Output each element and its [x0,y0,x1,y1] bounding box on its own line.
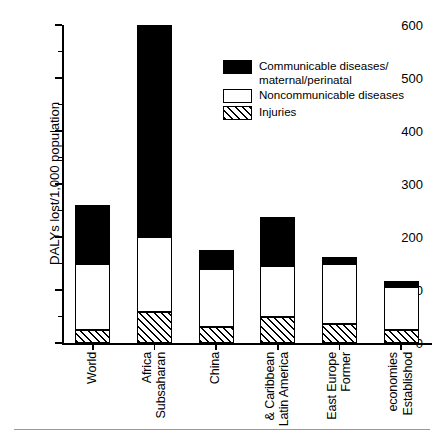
bar-stack [75,205,110,343]
y-axis-tick-major [55,24,62,26]
chart-figure: DALYs lost/1,000 population 010020030040… [0,0,444,443]
category-label-line: East Europe [326,352,339,420]
bar-segment-hatched [199,327,234,343]
legend-label: Communicable diseases/ maternal/perinata… [259,59,389,86]
bar-segment-black [384,281,419,287]
y-axis-tick-label: 300 [401,177,423,192]
category-label-line: Establishod [402,352,415,415]
x-axis-tick [215,343,217,350]
x-axis-category-label: World [86,352,99,384]
legend-item: Communicable diseases/ maternal/perinata… [223,59,404,86]
bar-segment-hatched [75,330,110,343]
bar-segment-black [75,205,110,263]
bar-stack [260,217,295,343]
category-label-line: World [86,352,99,384]
category-label-line: Africa [141,352,154,383]
x-axis-tick [400,343,402,350]
bar-segment-white [199,269,234,327]
bar-segment-hatched [260,317,295,344]
y-axis-tick-major [55,130,62,132]
bar-segment-white [75,264,110,330]
legend-swatch-hatched [223,106,252,120]
x-axis-line [62,343,432,345]
bar-stack [199,250,234,343]
bar-segment-black [199,250,234,269]
bar-stack [137,25,172,343]
y-axis-tick-major [55,183,62,185]
bar-stack [384,281,419,343]
bar-segment-hatched [384,330,419,343]
y-axis-tick-minor [58,104,63,106]
category-label-line: economies [387,352,400,412]
y-axis-tick-major [55,289,62,291]
x-axis-category-label: China [209,352,222,384]
bar-stack [322,257,357,343]
y-axis-tick-major [55,77,62,79]
y-axis-tick-major [55,342,62,344]
y-axis-tick-minor [58,210,63,212]
x-axis-category-label: Establishodeconomies [387,352,415,415]
y-axis-tick-label: 500 [401,71,423,86]
legend-item: Noncommunicable diseases [223,88,404,103]
category-label-line: China [209,352,222,384]
y-axis-line [62,25,64,343]
legend-label: Injuries [259,105,296,119]
x-axis-tick [92,343,94,350]
legend-item: Injuries [223,105,404,120]
legend-swatch-white [223,89,252,103]
bottom-divider [14,429,430,430]
y-axis-tick-minor [58,316,63,318]
x-axis-tick [154,343,156,350]
bar-segment-white [137,237,172,312]
bar-segment-hatched [137,312,172,343]
y-axis-tick-label: 400 [401,124,423,139]
category-label-line: Subsaharan [155,352,168,418]
bar-segment-white [322,264,357,325]
x-axis-tick [277,343,279,350]
y-axis-tick-major [55,236,62,238]
y-axis-tick-minor [58,263,63,265]
bar-segment-black [260,217,295,266]
legend-label: Noncommunicable diseases [259,88,404,102]
category-label-line: Latin America [278,352,291,426]
bar-segment-black [322,257,357,264]
bar-segment-hatched [322,324,357,343]
chart-legend: Communicable diseases/ maternal/perinata… [223,59,404,122]
category-label-line: Former [340,352,353,392]
bar-segment-white [384,287,419,329]
legend-swatch-black [223,60,252,74]
category-label-line: & Caribbean [264,352,277,420]
y-axis-tick-minor [58,51,63,53]
y-axis-tick-minor [58,157,63,159]
bar-segment-white [260,266,295,316]
x-axis-tick [339,343,341,350]
bar-segment-black [137,25,172,237]
y-axis-tick-label: 600 [401,18,423,33]
y-axis-tick-label: 200 [401,230,423,245]
x-axis-category-label: SubsaharanAfrica [141,352,169,418]
x-axis-category-label: FormerEast Europe [326,352,354,420]
x-axis-category-label: Latin America& Caribbean [264,352,292,426]
